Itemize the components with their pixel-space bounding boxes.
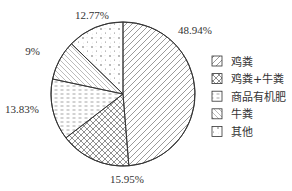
slice-value-label: 15.95%	[110, 173, 144, 185]
pie-slice	[123, 22, 195, 166]
legend-swatch	[212, 74, 222, 84]
legend-swatch	[212, 109, 222, 119]
pie-chart: 48.94%15.95%13.83%9%12.77% 鸡粪鸡粪+牛粪商品有机肥牛…	[0, 0, 292, 191]
slice-value-label: 12.77%	[75, 9, 109, 21]
legend-label: 鸡粪	[231, 55, 253, 69]
slice-value-label: 9%	[25, 45, 40, 57]
legend-label: 牛粪	[231, 107, 253, 121]
legend: 鸡粪鸡粪+牛粪商品有机肥牛粪其他	[212, 55, 286, 139]
legend-label: 鸡粪+牛粪	[231, 72, 284, 86]
slice-value-label: 48.94%	[178, 24, 212, 36]
slice-value-label: 13.83%	[5, 103, 39, 115]
legend-swatch	[212, 126, 222, 136]
pie-slices	[51, 22, 195, 166]
legend-label: 其他	[231, 126, 253, 139]
legend-swatch	[212, 56, 222, 66]
legend-label: 商品有机肥	[231, 90, 286, 104]
legend-swatch	[212, 91, 222, 101]
